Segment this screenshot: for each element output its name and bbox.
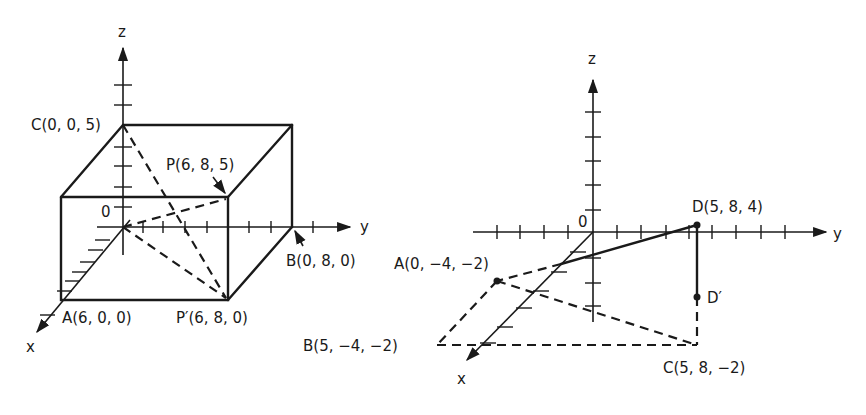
left-origin-label: 0	[101, 203, 111, 221]
left-figure: z y x 0	[26, 23, 369, 356]
b-pointer	[295, 231, 303, 246]
right-y-label: y	[833, 225, 842, 243]
diagram-canvas: z y x 0	[0, 0, 866, 415]
label-d: D(5, 8, 4)	[692, 198, 763, 216]
left-z-axis	[114, 48, 132, 255]
point-d	[694, 222, 701, 229]
label-b-left: B(0, 8, 0)	[286, 252, 356, 270]
label-a-right: A(0, −4, −2)	[394, 255, 489, 273]
point-a	[494, 278, 501, 285]
label-c-left: C(0, 0, 5)	[31, 116, 101, 134]
label-p: P(6, 8, 5)	[166, 156, 234, 174]
right-x-axis	[467, 232, 593, 360]
label-a-left: A(6, 0, 0)	[62, 309, 132, 327]
right-origin-label: 0	[578, 213, 588, 231]
right-z-axis	[585, 80, 601, 322]
right-x-label: x	[457, 370, 466, 388]
right-y-axis	[473, 225, 826, 239]
left-y-label: y	[360, 218, 369, 236]
label-p-prime: P′(6, 8, 0)	[176, 309, 248, 327]
label-c-right: C(5, 8, −2)	[663, 359, 745, 377]
right-dashed-lines	[437, 264, 697, 345]
left-x-label: x	[26, 338, 35, 356]
p-pointer	[213, 177, 225, 193]
right-figure: z y x 0	[303, 50, 842, 388]
left-dashed-lines	[123, 125, 226, 298]
point-d-prime	[694, 294, 701, 301]
label-d-prime: D′	[707, 289, 723, 307]
left-y-axis	[97, 221, 350, 233]
label-b-right: B(5, −4, −2)	[303, 337, 398, 355]
right-z-label: z	[588, 50, 596, 68]
left-z-label: z	[118, 23, 126, 41]
rectangular-box	[61, 125, 292, 300]
